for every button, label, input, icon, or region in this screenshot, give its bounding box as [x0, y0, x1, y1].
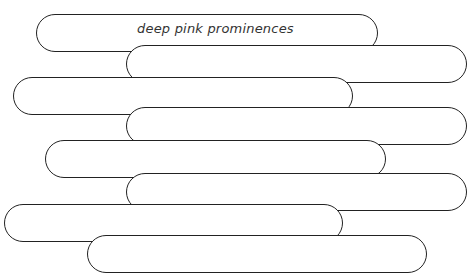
answer-bar-8[interactable]	[87, 235, 427, 273]
answer-text-1: deep pink prominences	[137, 21, 294, 36]
